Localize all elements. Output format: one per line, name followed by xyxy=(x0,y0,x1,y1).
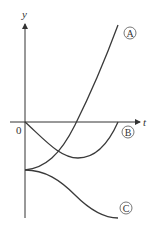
origin-label: 0 xyxy=(16,124,22,136)
svg-text:A: A xyxy=(126,28,134,39)
curve-c-label: C xyxy=(120,202,132,214)
curve-a xyxy=(25,25,118,170)
svg-text:C: C xyxy=(123,203,130,214)
curve-a-label: A xyxy=(124,27,136,39)
svg-text:B: B xyxy=(125,127,132,138)
curve-c xyxy=(25,170,118,218)
y-axis-label: y xyxy=(21,8,27,20)
curve-b-label: B xyxy=(122,126,134,138)
curve-b xyxy=(25,122,118,158)
t-axis-label: t xyxy=(143,116,147,128)
graph-diagram: y t 0 A B C xyxy=(0,0,152,231)
